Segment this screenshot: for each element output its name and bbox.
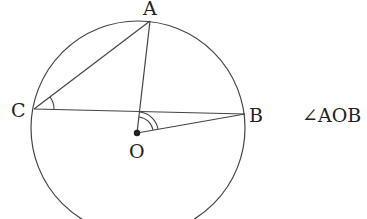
label-c: C [11,99,26,121]
angle-caption: ∠AOB [302,104,361,126]
segment-ao [137,21,150,133]
label-b: B [249,104,263,126]
segment-ob [137,114,245,133]
angle-mark-c [50,97,54,110]
angle-mark-o-outer [140,112,158,129]
center-point-o [134,130,140,136]
label-o: O [129,140,145,162]
angle-mark-o-inner [139,117,153,130]
label-a: A [142,0,157,19]
circle-geometry-diagram: A B C O ∠AOB [0,0,367,219]
